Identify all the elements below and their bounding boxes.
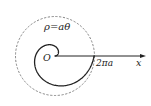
spiral-curve bbox=[35, 45, 94, 86]
equation-label: ρ=aθ bbox=[43, 21, 70, 32]
axis-label: x bbox=[136, 57, 142, 68]
origin-label: O bbox=[43, 52, 51, 63]
radius-label: 2πa bbox=[95, 58, 113, 68]
archimedean-spiral-diagram: ρ=aθ O 2πa x bbox=[0, 0, 151, 106]
